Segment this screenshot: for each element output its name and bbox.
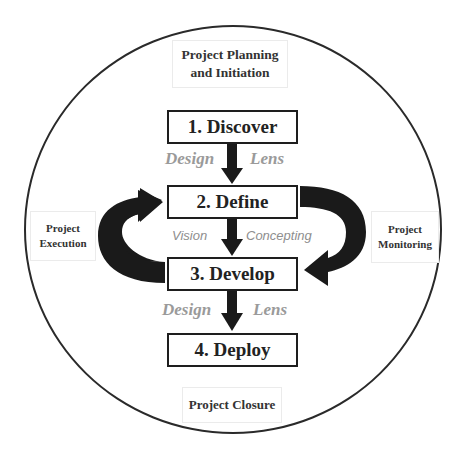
label-project-closure: Project Closure: [182, 387, 282, 423]
phase-develop: 3. Develop: [167, 257, 298, 291]
diagram-canvas: Project Planning and Initiation Project …: [0, 0, 464, 453]
curved-arrow-left-execution: [98, 188, 165, 283]
label-project-planning-initiation: Project Planning and Initiation: [172, 40, 288, 88]
connector-label-lens-2: Lens: [253, 300, 287, 320]
arrow-define-to-develop: [221, 219, 243, 256]
connector-label-lens-1: Lens: [250, 149, 284, 169]
label-planning-line1: Project Planning: [182, 46, 279, 64]
label-project-monitoring: Project Monitoring: [371, 211, 439, 263]
label-closure-line1: Project Closure: [189, 396, 276, 414]
arrow-discover-to-define: [221, 144, 243, 184]
connector-label-concepting: Concepting: [246, 228, 312, 243]
phase-deploy: 4. Deploy: [167, 333, 298, 367]
arrow-develop-to-deploy: [221, 291, 243, 331]
label-execution-line2: Execution: [39, 236, 86, 251]
connector-label-vision: Vision: [172, 228, 207, 243]
label-project-execution: Project Execution: [30, 211, 96, 261]
label-planning-line2: and Initiation: [190, 64, 269, 82]
phase-discover: 1. Discover: [167, 110, 298, 144]
label-monitoring-line2: Monitoring: [378, 237, 432, 252]
connector-label-design-1: Design: [165, 149, 214, 169]
label-monitoring-line1: Project: [388, 222, 422, 237]
phase-define: 2. Define: [167, 185, 298, 219]
connector-label-design-2: Design: [162, 300, 211, 320]
label-execution-line1: Project: [46, 221, 80, 236]
